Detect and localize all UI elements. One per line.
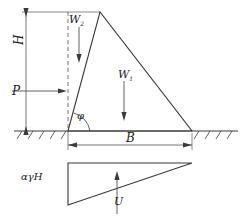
force-arrow-W1	[121, 81, 126, 121]
dimension-height-H	[23, 8, 28, 135]
label-height-H: H	[13, 35, 25, 45]
label-force-W1: W1	[118, 69, 133, 82]
label-force-W2-base: W	[69, 13, 80, 26]
force-arrow-P	[12, 88, 67, 93]
label-angle-phi: φ	[77, 111, 84, 121]
label-force-W1-base: W	[118, 68, 129, 81]
ground-hatching-right	[194, 131, 232, 139]
label-force-W2-subscript: 2	[80, 20, 84, 27]
force-arrow-W2	[76, 27, 81, 63]
uplift-pressure-triangle	[68, 163, 192, 205]
label-force-P: P	[12, 85, 20, 97]
label-force-U: U	[114, 196, 123, 207]
label-uplift-intensity: αγH	[21, 172, 42, 182]
label-force-W1-subscript: 1	[129, 75, 133, 82]
label-force-W2: W2	[69, 14, 84, 27]
label-base-B: B	[126, 132, 135, 144]
dam-free-body-diagram	[0, 0, 246, 220]
